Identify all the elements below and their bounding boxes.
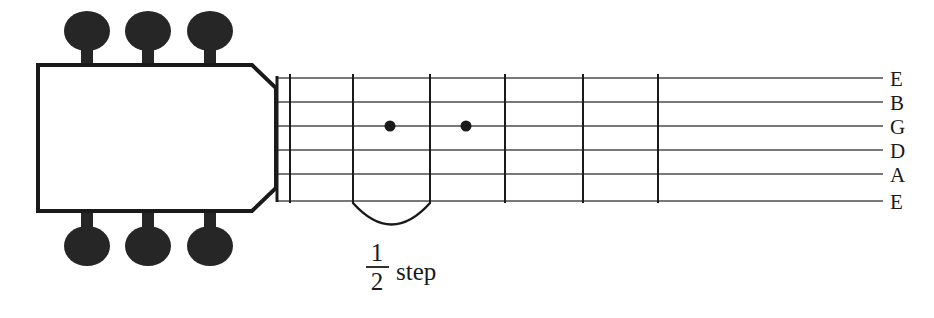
tuner-peg-top-1: [64, 11, 110, 68]
tuner-peg-top-3-button: [187, 11, 233, 51]
tuner-peg-bottom-2-button: [125, 226, 171, 266]
frets-group: [290, 74, 658, 203]
half-step-annotation: 1 2 step: [366, 239, 436, 295]
string-label-e-low: E: [890, 190, 903, 214]
string-label-b: B: [890, 91, 904, 115]
guitar-headstock: [38, 65, 276, 211]
tuner-pegs-bottom-group: [64, 208, 233, 266]
tuner-peg-bottom-2: [125, 208, 171, 266]
step-word: step: [396, 258, 436, 285]
tuner-peg-top-1-button: [64, 11, 110, 51]
fraction-numerator: 1: [371, 239, 384, 266]
tuner-peg-top-2-button: [125, 11, 171, 51]
note-dot-fret-3[interactable]: [461, 121, 472, 132]
tuner-peg-bottom-3: [187, 208, 233, 266]
strings-group: [276, 78, 883, 201]
string-label-a: A: [890, 163, 906, 187]
tuner-pegs-top-group: [64, 11, 233, 68]
tuner-peg-top-3: [187, 11, 233, 68]
string-label-g: G: [890, 115, 905, 139]
half-step-arc: [353, 203, 430, 225]
fraction-denominator: 2: [371, 268, 384, 295]
diagram-canvas: 1 2 step E B G D A E: [0, 0, 934, 318]
note-dot-fret-2[interactable]: [385, 121, 396, 132]
string-label-d: D: [890, 139, 905, 163]
string-label-e-high: E: [890, 67, 903, 91]
tuner-peg-bottom-3-button: [187, 226, 233, 266]
guitar-neck-diagram: 1 2 step E B G D A E: [0, 0, 934, 318]
tuner-peg-bottom-1-button: [64, 226, 110, 266]
string-labels-group: E B G D A E: [890, 67, 906, 214]
tuner-peg-bottom-1: [64, 208, 110, 266]
tuner-peg-top-2: [125, 11, 171, 68]
